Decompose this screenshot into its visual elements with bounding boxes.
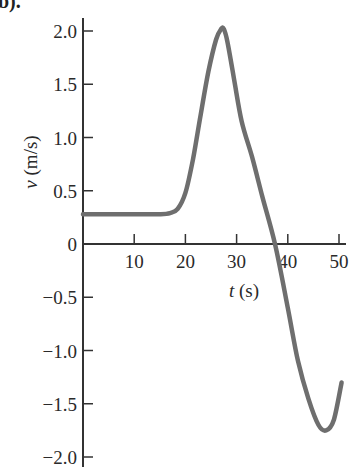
velocity-time-chart: 2.01.51.00.50−0.5−1.0−1.5−2.0 1020304050… bbox=[0, 0, 352, 467]
y-tick-label: −0.5 bbox=[43, 287, 77, 308]
y-tick-label: −1.5 bbox=[43, 394, 77, 415]
y-tick-label: 0.5 bbox=[53, 181, 77, 202]
y-tick-label: 1.5 bbox=[53, 74, 77, 95]
y-tick-label: −2.0 bbox=[43, 447, 77, 467]
y-tick-label: −1.0 bbox=[43, 341, 77, 362]
x-tick-label: 10 bbox=[125, 251, 144, 272]
y-tick-label: 1.0 bbox=[53, 128, 77, 149]
x-axis-label: t (s) bbox=[229, 280, 259, 302]
x-tick-label: 20 bbox=[176, 251, 195, 272]
y-axis-label: v (m/s) bbox=[20, 135, 42, 188]
x-tick-label: 50 bbox=[330, 251, 349, 272]
y-tick-label: 0 bbox=[68, 234, 78, 255]
y-tick-label: 2.0 bbox=[53, 21, 77, 42]
x-axis-ticks: 1020304050 bbox=[125, 234, 349, 272]
velocity-curve bbox=[83, 27, 342, 430]
x-tick-label: 30 bbox=[227, 251, 246, 272]
